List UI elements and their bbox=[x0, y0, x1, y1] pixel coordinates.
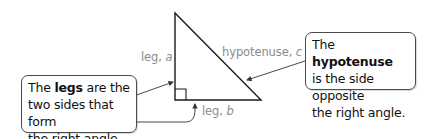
hypotenuse-c-var: c bbox=[296, 45, 302, 59]
leg-b-prefix: leg, bbox=[202, 104, 226, 118]
arrow-to-leg-a bbox=[131, 82, 173, 97]
right-angle-mark bbox=[175, 89, 186, 100]
leg-a-label: leg, a bbox=[141, 50, 172, 64]
leg-a-prefix: leg, bbox=[141, 50, 165, 64]
hypotenuse-callout: The hypotenuse is the side opposite the … bbox=[305, 32, 416, 90]
legs-callout-line3: the right angle. bbox=[28, 130, 131, 139]
hypotenuse-c-label: hypotenuse, c bbox=[222, 45, 302, 59]
legs-callout-line1: The legs are the bbox=[28, 79, 131, 96]
leg-b-label: leg, b bbox=[202, 104, 234, 118]
hypotenuse-c-prefix: hypotenuse, bbox=[222, 45, 296, 59]
hypotenuse-callout-line2: is the side opposite bbox=[312, 70, 410, 104]
hypotenuse-term: hypotenuse bbox=[312, 54, 393, 69]
leg-a-var: a bbox=[165, 50, 172, 64]
hypotenuse-callout-line1: The hypotenuse bbox=[312, 36, 410, 70]
arrow-to-hypotenuse bbox=[247, 61, 305, 80]
legs-callout-line2: two sides that form bbox=[28, 96, 131, 130]
legs-callout: The legs are the two sides that form the… bbox=[21, 75, 137, 133]
legs-term: legs bbox=[54, 80, 82, 95]
leg-b-var: b bbox=[226, 104, 233, 118]
arrow-to-leg-b bbox=[137, 104, 195, 122]
hypotenuse-callout-line3: the right angle. bbox=[312, 104, 410, 121]
